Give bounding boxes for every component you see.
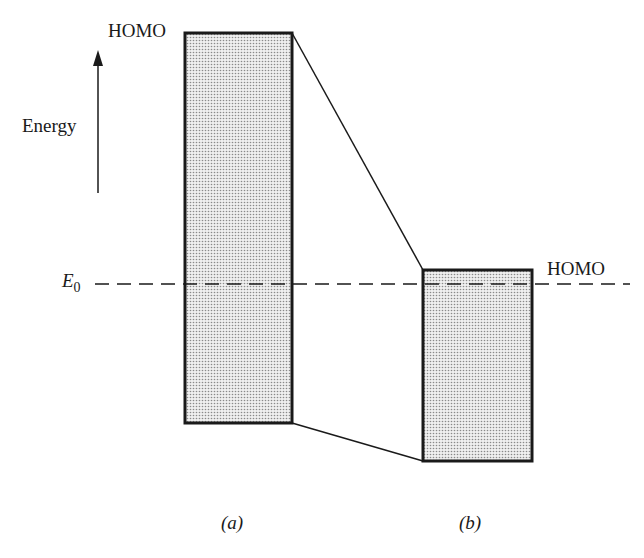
band-a-homo-label: HOMO: [108, 20, 166, 42]
connector-bottom: [292, 423, 423, 461]
e0-label: E0: [62, 270, 81, 296]
energy-arrow-icon: [93, 50, 103, 193]
band-a: [185, 33, 292, 423]
band-b: [423, 270, 532, 461]
caption-b: (b): [459, 512, 481, 534]
energy-axis-label: Energy: [22, 115, 77, 137]
e0-subscript: 0: [74, 280, 81, 295]
caption-a: (a): [221, 512, 243, 534]
connector-top: [292, 33, 423, 270]
band-b-homo-label: HOMO: [547, 258, 605, 280]
e0-symbol: E: [62, 270, 74, 291]
